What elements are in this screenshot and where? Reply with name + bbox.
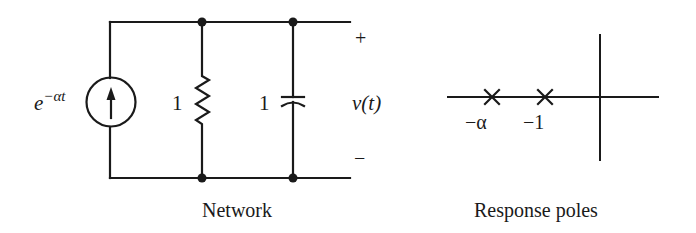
junction-dot	[289, 18, 298, 27]
junction-dot	[198, 174, 207, 183]
pole-zero-plot: −α −1 Response poles	[447, 34, 659, 222]
pole-label-one: −1	[523, 111, 544, 133]
output-voltage-label: v(t)	[352, 91, 381, 115]
output-minus: −	[354, 147, 365, 169]
capacitor-icon	[282, 22, 304, 178]
junction-dot	[198, 18, 207, 27]
resistor-label: 1	[172, 91, 183, 115]
figure: e−αt 1 1 + v(t) − Network	[0, 0, 696, 233]
current-source-icon	[87, 78, 136, 127]
capacitor-label: 1	[259, 91, 270, 115]
pole-label-alpha: −α	[465, 111, 487, 133]
source-label: e−αt	[34, 88, 66, 115]
output-plus: +	[355, 27, 366, 49]
network-schematic: e−αt 1 1 + v(t) − Network	[34, 18, 381, 222]
resistor-icon	[196, 22, 209, 178]
poles-caption: Response poles	[474, 199, 598, 222]
network-caption: Network	[202, 199, 272, 221]
junction-dot	[289, 174, 298, 183]
